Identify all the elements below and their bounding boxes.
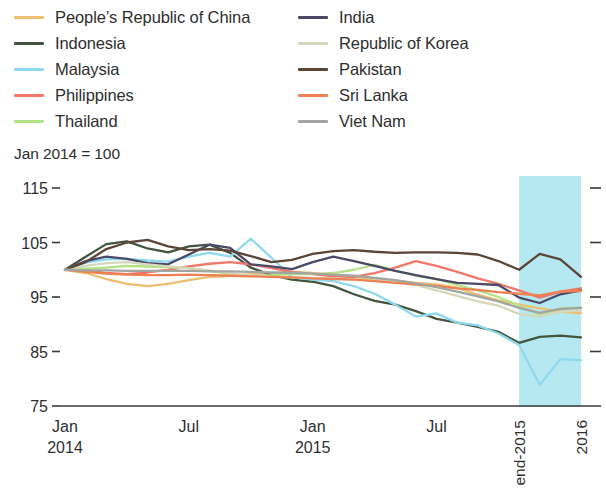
- series-line-malaysia: [65, 239, 581, 385]
- legend-label-philippines: Philippines: [55, 87, 134, 104]
- legend-item-thailand: Thailand: [14, 108, 250, 134]
- legend-item-sri-lanka: Sri Lanka: [298, 82, 468, 108]
- legend-column-right: India Republic of Korea Pakistan Sri Lan…: [298, 4, 468, 134]
- legend-label-malaysia: Malaysia: [55, 61, 119, 78]
- legend-swatch-philippines: [14, 94, 44, 97]
- x-tick-label-rotated: 2016: [573, 420, 590, 454]
- x-tick-label: Jan: [52, 418, 78, 435]
- legend-label-pakistan: Pakistan: [339, 61, 402, 78]
- x-tick-label-rotated: end-2015: [511, 420, 528, 486]
- legend-swatch-viet-nam: [298, 120, 328, 123]
- legend-label-india: India: [339, 9, 374, 26]
- legend-item-republic-of-korea: Republic of Korea: [298, 30, 468, 56]
- legend-item-pakistan: Pakistan: [298, 56, 468, 82]
- x-tick-label: Jul: [179, 418, 199, 435]
- legend-label-indonesia: Indonesia: [55, 35, 126, 52]
- legend-label-republic-of-korea: Republic of Korea: [339, 35, 468, 52]
- legend-label-sri-lanka: Sri Lanka: [339, 87, 408, 104]
- y-tick-label: 95: [30, 289, 48, 306]
- legend-swatch-pakistan: [298, 68, 328, 71]
- legend-column-left: People’s Republic of China Indonesia Mal…: [14, 4, 250, 134]
- line-chart: 758595105115Jan2014JulJan2015Julend-2015…: [0, 168, 606, 494]
- x-tick-label: Jul: [426, 418, 446, 435]
- legend-item-malaysia: Malaysia: [14, 56, 250, 82]
- x-tick-label-year: 2015: [295, 439, 331, 456]
- x-tick-label-year: 2014: [47, 439, 83, 456]
- legend-swatch-prc: [14, 16, 44, 19]
- chart-legend: People’s Republic of China Indonesia Mal…: [0, 0, 606, 134]
- x-tick-label: Jan: [300, 418, 326, 435]
- y-tick-label: 75: [30, 398, 48, 415]
- legend-swatch-republic-of-korea: [298, 42, 328, 45]
- legend-swatch-thailand: [14, 120, 44, 123]
- legend-swatch-malaysia: [14, 68, 44, 71]
- y-tick-label: 115: [22, 180, 48, 197]
- index-base-note: Jan 2014 = 100: [14, 145, 120, 163]
- y-tick-label: 105: [21, 235, 48, 252]
- legend-label-prc: People’s Republic of China: [55, 9, 250, 26]
- y-tick-label: 85: [30, 344, 48, 361]
- legend-item-indonesia: Indonesia: [14, 30, 250, 56]
- legend-item-viet-nam: Viet Nam: [298, 108, 468, 134]
- chart-canvas: 758595105115Jan2014JulJan2015Julend-2015…: [0, 168, 606, 494]
- legend-swatch-sri-lanka: [298, 94, 328, 97]
- legend-label-thailand: Thailand: [55, 113, 118, 130]
- legend-item-prc: People’s Republic of China: [14, 4, 250, 30]
- legend-swatch-india: [298, 16, 328, 19]
- legend-item-india: India: [298, 4, 468, 30]
- legend-item-philippines: Philippines: [14, 82, 250, 108]
- legend-swatch-indonesia: [14, 42, 44, 45]
- legend-label-viet-nam: Viet Nam: [339, 113, 406, 130]
